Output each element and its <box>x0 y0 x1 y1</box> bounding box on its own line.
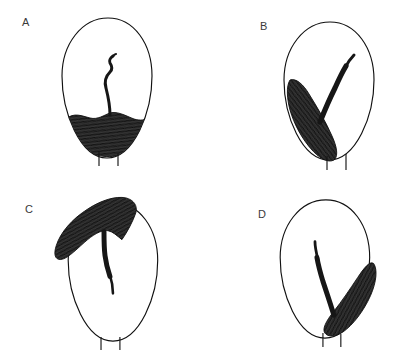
panel-a-drawing <box>0 0 208 176</box>
panel-b: B <box>208 0 416 176</box>
dark-mass-a <box>66 113 148 157</box>
panel-c-drawing <box>0 176 208 352</box>
panel-c: C <box>0 176 208 352</box>
figure-panel-grid: A <box>0 0 416 353</box>
panel-d-drawing <box>208 176 416 352</box>
panel-b-drawing <box>208 0 416 176</box>
panel-d: D <box>208 176 416 352</box>
panel-a: A <box>0 0 208 176</box>
